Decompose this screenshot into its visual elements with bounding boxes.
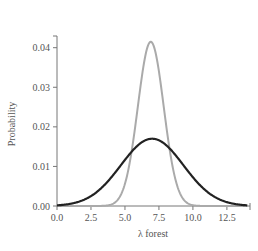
curves bbox=[57, 42, 247, 206]
y-tick-label: 0.01 bbox=[33, 161, 51, 172]
x-tick-label: 0.0 bbox=[51, 212, 64, 223]
y-tick-label: 0.04 bbox=[33, 42, 51, 53]
x-axis-label: λ forest bbox=[138, 228, 168, 239]
x-tick-label: 2.5 bbox=[85, 212, 98, 223]
narrow-curve bbox=[57, 42, 247, 206]
y-tick-label: 0.02 bbox=[33, 121, 51, 132]
x-tick-label: 12.5 bbox=[218, 212, 236, 223]
y-tick-label: 0.03 bbox=[33, 82, 51, 93]
wide-curve bbox=[57, 139, 247, 206]
x-tick-label: 5.0 bbox=[119, 212, 132, 223]
y-axis-label: Probability bbox=[6, 102, 17, 146]
x-tick-label: 7.5 bbox=[153, 212, 166, 223]
probability-chart: 0.000.010.020.030.040.02.55.07.510.012.5… bbox=[0, 0, 258, 251]
chart-container: 0.000.010.020.030.040.02.55.07.510.012.5… bbox=[0, 0, 258, 251]
x-tick-label: 10.0 bbox=[184, 212, 202, 223]
y-tick-label: 0.00 bbox=[33, 201, 51, 212]
axes: 0.000.010.020.030.040.02.55.07.510.012.5 bbox=[33, 36, 251, 223]
